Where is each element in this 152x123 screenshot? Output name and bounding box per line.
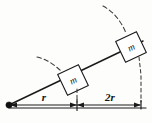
diagram-canvas: m m r 2r — [0, 0, 152, 123]
dimension-label-2r: 2r — [104, 91, 116, 103]
arrowhead-right — [134, 103, 141, 108]
dimension-label-r: r — [42, 91, 47, 103]
outer-drop-line — [139, 57, 141, 102]
arrowhead-mid-left — [70, 103, 77, 108]
outer-arc — [103, 6, 126, 33]
arrowhead-mid-right — [77, 103, 84, 108]
physics-diagram: m m r 2r — [0, 0, 152, 123]
inner-arc — [37, 57, 62, 72]
